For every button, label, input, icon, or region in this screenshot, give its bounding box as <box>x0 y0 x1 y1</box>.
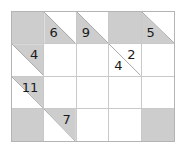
down-clue-number: 4 <box>114 59 122 72</box>
kakuro-block-cell <box>12 109 44 141</box>
across-clue-number: 4 <box>30 48 38 61</box>
kakuro-entry-cell[interactable] <box>44 44 76 76</box>
kakuro-clue-cell: 11 <box>12 77 44 109</box>
kakuro-puzzle: 695424117 <box>0 0 185 153</box>
down-clue-number: 6 <box>49 26 57 39</box>
across-clue-number: 11 <box>22 81 39 94</box>
kakuro-entry-cell[interactable] <box>77 44 109 76</box>
kakuro-block-cell <box>142 109 174 141</box>
kakuro-entry-cell[interactable] <box>142 77 174 109</box>
kakuro-clue-cell: 6 <box>44 12 76 44</box>
clue-upper-triangle <box>12 44 43 75</box>
kakuro-entry-cell[interactable] <box>109 109 141 141</box>
kakuro-entry-cell[interactable] <box>77 109 109 141</box>
clue-lower-triangle <box>12 44 43 75</box>
kakuro-clue-cell: 9 <box>77 12 109 44</box>
kakuro-entry-cell[interactable] <box>109 77 141 109</box>
down-clue-number: 9 <box>82 26 90 39</box>
kakuro-entry-cell[interactable] <box>142 44 174 76</box>
across-clue-number: 2 <box>127 48 135 61</box>
clue-lower-triangle <box>44 109 75 141</box>
kakuro-clue-cell: 4 <box>12 44 44 76</box>
kakuro-entry-cell[interactable] <box>44 77 76 109</box>
down-clue-number: 5 <box>147 26 155 39</box>
across-clue-number: 7 <box>63 113 71 126</box>
clue-diagonal-line <box>44 109 75 141</box>
kakuro-clue-cell: 24 <box>109 44 141 76</box>
kakuro-clue-cell: 7 <box>44 109 76 141</box>
kakuro-clue-cell: 5 <box>142 12 174 44</box>
kakuro-entry-cell[interactable] <box>77 77 109 109</box>
kakuro-grid: 695424117 <box>11 11 175 142</box>
clue-upper-triangle <box>44 109 75 141</box>
kakuro-block-cell <box>12 12 44 44</box>
kakuro-block-cell <box>109 12 141 44</box>
clue-diagonal-line <box>12 44 43 75</box>
